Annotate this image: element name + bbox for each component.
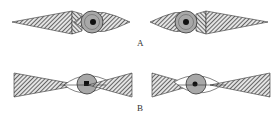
pupil-icon (193, 82, 198, 87)
visual-field-wedge (196, 11, 206, 34)
panel-label-b: B (137, 104, 143, 113)
panel-label-a: A (137, 39, 144, 48)
panel-a-right-figure (150, 11, 268, 34)
visual-field-wedge (12, 11, 72, 34)
visual-field-wedge (206, 11, 268, 34)
panel-b-right-figure (152, 73, 270, 97)
panel-a-left-figure (12, 11, 130, 34)
pupil-icon (90, 19, 96, 25)
pupil-icon (183, 19, 189, 25)
panel-b-left-figure (14, 73, 132, 97)
